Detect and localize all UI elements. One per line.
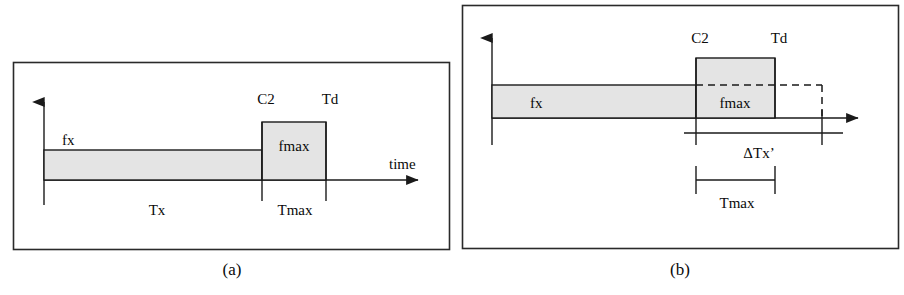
- panel-a-fmax-label: fmax: [279, 138, 310, 154]
- panel-a-tx-label: Tx: [149, 202, 166, 218]
- panel-a-fx-band: [44, 150, 262, 180]
- panel-b-td-label: Td: [771, 30, 788, 46]
- panel-a-c2-label: C2: [257, 91, 275, 107]
- panel-a-fx-label: fx: [62, 132, 75, 148]
- panel-b-caption: (b): [670, 260, 690, 279]
- panel-a-caption: (a): [223, 260, 242, 279]
- diagram-canvas: fx fmax C2 Td Tx Tmax time (a): [0, 0, 904, 295]
- panel-b-fx-band: [492, 85, 696, 118]
- panel-b-c2-label: C2: [691, 30, 709, 46]
- panel-b-tmax-label: Tmax: [720, 195, 755, 211]
- panel-a-td-label: Td: [322, 91, 339, 107]
- panel-b-delta-tx-label: ΔTx’: [743, 145, 774, 161]
- panel-b-fmax-label: fmax: [720, 95, 751, 111]
- panel-a-tmax-label: Tmax: [278, 202, 313, 218]
- timing-diagram-figure: fx fmax C2 Td Tx Tmax time (a): [0, 0, 904, 295]
- panel-b-fx-label: fx: [530, 95, 543, 111]
- panel-b-frame: [463, 6, 899, 249]
- panel-a-time-axis-label: time: [389, 156, 416, 172]
- panel-b: fx fmax C2 Td ΔTx’ Tmax (b): [463, 6, 899, 280]
- panel-a: fx fmax C2 Td Tx Tmax time (a): [14, 63, 450, 280]
